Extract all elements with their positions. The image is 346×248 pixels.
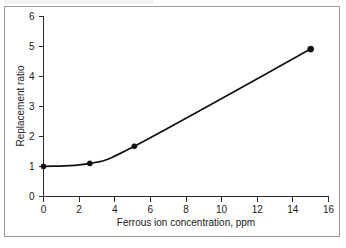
x-tick-label: 6 — [148, 204, 154, 215]
y-axis-title: Replacement ratio — [15, 65, 26, 147]
line-chart: 0123456 0246810121416 Ferrous ion concen… — [0, 0, 346, 248]
y-tick-label: 5 — [29, 41, 35, 52]
data-point — [41, 164, 46, 169]
y-tick-label: 6 — [29, 11, 35, 22]
x-tick-label: 14 — [287, 204, 299, 215]
x-axis-title: Ferrous ion concentration, ppm — [117, 217, 255, 228]
chart-figure: 0123456 0246810121416 Ferrous ion concen… — [0, 0, 346, 248]
y-tick-label: 3 — [29, 101, 35, 112]
x-axis-ticks — [44, 197, 329, 202]
data-point — [308, 46, 314, 52]
y-tick-label: 0 — [29, 191, 35, 202]
data-series-line — [44, 49, 311, 166]
x-tick-label: 8 — [183, 204, 189, 215]
x-tick-label: 16 — [323, 204, 335, 215]
y-tick-label: 4 — [29, 71, 35, 82]
data-point — [132, 144, 137, 149]
y-tick-label: 2 — [29, 131, 35, 142]
data-point — [87, 161, 92, 166]
y-tick-label: 1 — [29, 161, 35, 172]
x-tick-label: 10 — [216, 204, 228, 215]
y-axis-tick-labels: 0123456 — [29, 11, 35, 203]
x-tick-label: 4 — [112, 204, 118, 215]
x-axis-tick-labels: 0246810121416 — [41, 204, 335, 215]
y-axis-ticks — [39, 16, 44, 197]
x-tick-label: 2 — [76, 204, 82, 215]
data-series-markers — [41, 46, 314, 169]
x-tick-label: 12 — [252, 204, 264, 215]
x-tick-label: 0 — [41, 204, 47, 215]
